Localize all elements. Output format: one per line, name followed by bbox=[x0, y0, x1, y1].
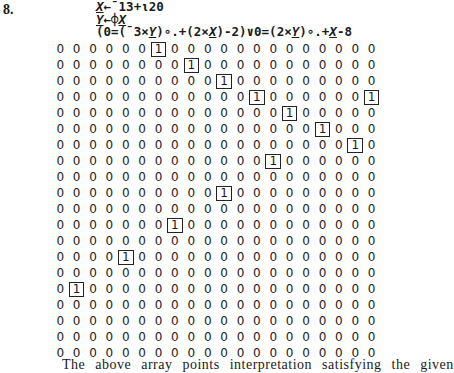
matrix-cell: 0 bbox=[200, 58, 216, 73]
matrix-cell: 0 bbox=[363, 298, 379, 313]
matrix-cell: 0 bbox=[314, 58, 330, 73]
matrix-cell: 0 bbox=[150, 122, 166, 137]
matrix-cell: 0 bbox=[265, 234, 281, 249]
code-variable: X bbox=[329, 24, 337, 39]
matrix-cell: 0 bbox=[101, 330, 117, 345]
matrix-cell: 0 bbox=[265, 202, 281, 217]
matrix-cell: 0 bbox=[298, 202, 314, 217]
matrix-cell: 0 bbox=[216, 330, 232, 345]
matrix-cell: 0 bbox=[150, 58, 166, 73]
matrix-cell: 0 bbox=[101, 122, 117, 137]
matrix-cell: 0 bbox=[85, 106, 101, 121]
matrix-cell: 0 bbox=[331, 202, 347, 217]
matrix-cell-one-boxed: 1 bbox=[150, 42, 166, 57]
matrix-cell: 0 bbox=[232, 282, 248, 297]
code-text: )∘.+(2× bbox=[156, 24, 209, 39]
matrix-cell: 0 bbox=[52, 250, 68, 265]
matrix-cell: 0 bbox=[150, 74, 166, 89]
matrix-cell: 0 bbox=[118, 170, 134, 185]
matrix-cell: 0 bbox=[85, 202, 101, 217]
matrix-row: 00000010000000000000 bbox=[52, 41, 380, 57]
matrix-cell: 0 bbox=[216, 250, 232, 265]
matrix-cell: 0 bbox=[363, 74, 379, 89]
matrix-cell: 0 bbox=[216, 234, 232, 249]
matrix-cell: 0 bbox=[298, 218, 314, 233]
matrix-cell-one-boxed: 1 bbox=[265, 154, 281, 169]
matrix-cell: 0 bbox=[347, 314, 363, 329]
matrix-cell: 0 bbox=[52, 234, 68, 249]
matrix-cell: 0 bbox=[134, 106, 150, 121]
matrix-cell: 0 bbox=[265, 330, 281, 345]
matrix-cell: 0 bbox=[265, 266, 281, 281]
matrix-cell: 0 bbox=[331, 266, 347, 281]
matrix-cell: 0 bbox=[150, 138, 166, 153]
matrix-cell: 0 bbox=[200, 250, 216, 265]
matrix-cell: 0 bbox=[200, 42, 216, 57]
matrix-cell: 0 bbox=[150, 218, 166, 233]
matrix-cell: 0 bbox=[249, 250, 265, 265]
matrix-cell-one-boxed: 1 bbox=[167, 218, 183, 233]
matrix-cell: 0 bbox=[281, 90, 297, 105]
matrix-cell: 0 bbox=[52, 58, 68, 73]
matrix-cell: 0 bbox=[200, 170, 216, 185]
matrix-cell: 0 bbox=[134, 42, 150, 57]
matrix-cell: 0 bbox=[200, 330, 216, 345]
matrix-cell: 0 bbox=[232, 106, 248, 121]
matrix-cell: 0 bbox=[200, 234, 216, 249]
matrix-cell: 0 bbox=[298, 42, 314, 57]
matrix-cell: 0 bbox=[314, 250, 330, 265]
matrix-cell: 0 bbox=[68, 314, 84, 329]
matrix-cell: 0 bbox=[134, 90, 150, 105]
matrix-cell: 0 bbox=[249, 218, 265, 233]
matrix-cell: 0 bbox=[298, 298, 314, 313]
matrix-cell: 0 bbox=[249, 138, 265, 153]
matrix-cell: 0 bbox=[167, 186, 183, 201]
matrix-cell: 0 bbox=[52, 106, 68, 121]
matrix-cell: 0 bbox=[134, 122, 150, 137]
matrix-cell: 0 bbox=[150, 314, 166, 329]
matrix-cell: 0 bbox=[249, 202, 265, 217]
matrix-cell: 0 bbox=[232, 266, 248, 281]
matrix-cell: 0 bbox=[331, 74, 347, 89]
matrix-cell: 0 bbox=[200, 218, 216, 233]
matrix-cell: 0 bbox=[281, 282, 297, 297]
matrix-cell: 0 bbox=[347, 298, 363, 313]
matrix-cell: 0 bbox=[298, 250, 314, 265]
code-line: (0=(¯3×Y)∘.+(2×X)-2)∨0=(2×Y)∘.+X-8 bbox=[96, 26, 352, 39]
matrix-cell: 0 bbox=[232, 42, 248, 57]
matrix-row: 00000000000010000001 bbox=[52, 89, 380, 105]
matrix-cell: 0 bbox=[298, 234, 314, 249]
matrix-cell: 0 bbox=[314, 330, 330, 345]
matrix-cell: 0 bbox=[281, 250, 297, 265]
matrix-cell: 0 bbox=[363, 234, 379, 249]
matrix-cell: 0 bbox=[347, 186, 363, 201]
matrix-cell: 0 bbox=[200, 90, 216, 105]
matrix-cell: 0 bbox=[183, 298, 199, 313]
matrix-cell: 0 bbox=[150, 250, 166, 265]
matrix-cell: 0 bbox=[85, 314, 101, 329]
matrix-cell: 0 bbox=[85, 170, 101, 185]
matrix-cell: 0 bbox=[298, 186, 314, 201]
matrix-cell: 0 bbox=[200, 106, 216, 121]
matrix-cell: 0 bbox=[249, 74, 265, 89]
matrix-cell: 0 bbox=[118, 106, 134, 121]
matrix-cell-one-boxed: 1 bbox=[216, 74, 232, 89]
matrix-cell: 0 bbox=[85, 138, 101, 153]
matrix-cell: 0 bbox=[281, 186, 297, 201]
matrix-cell: 0 bbox=[200, 282, 216, 297]
matrix-cell: 0 bbox=[52, 202, 68, 217]
code-line: X←¯13+⍳20 bbox=[96, 1, 352, 14]
matrix-cell: 0 bbox=[85, 298, 101, 313]
matrix-cell: 0 bbox=[183, 234, 199, 249]
matrix-cell: 0 bbox=[52, 330, 68, 345]
matrix-cell: 0 bbox=[52, 298, 68, 313]
matrix-cell: 0 bbox=[216, 122, 232, 137]
matrix-cell: 0 bbox=[298, 314, 314, 329]
matrix-cell: 0 bbox=[167, 90, 183, 105]
matrix-cell: 0 bbox=[200, 74, 216, 89]
matrix-cell: 0 bbox=[363, 106, 379, 121]
matrix-cell: 0 bbox=[363, 314, 379, 329]
matrix-cell-one-boxed: 1 bbox=[118, 250, 134, 265]
matrix-cell: 0 bbox=[167, 330, 183, 345]
matrix-cell: 0 bbox=[331, 314, 347, 329]
